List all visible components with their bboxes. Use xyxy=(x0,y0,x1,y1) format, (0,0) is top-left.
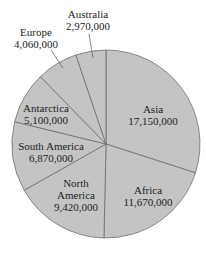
label-south-america-value: 6,870,000 xyxy=(29,152,74,164)
label-south-america-name: South America xyxy=(18,140,84,152)
label-asia-name: Asia xyxy=(143,103,163,115)
pie-chart: Asia 17,150,000 Africa 11,670,000 North … xyxy=(0,0,206,253)
label-europe-value: 4,060,000 xyxy=(14,38,59,50)
label-australia-name: Australia xyxy=(68,8,108,20)
label-africa-name: Africa xyxy=(134,184,162,196)
label-north-america-name1: North xyxy=(63,177,89,189)
label-antarctica-name: Antarctica xyxy=(23,102,69,114)
label-europe-name: Europe xyxy=(20,26,52,38)
label-north-america-name2: America xyxy=(57,189,95,201)
label-north-america-value: 9,420,000 xyxy=(54,201,99,213)
label-antarctica-value: 5,100,000 xyxy=(24,114,69,126)
label-asia-value: 17,150,000 xyxy=(128,115,178,127)
label-australia-value: 2,970,000 xyxy=(66,20,111,32)
label-africa-value: 11,670,000 xyxy=(123,196,173,208)
